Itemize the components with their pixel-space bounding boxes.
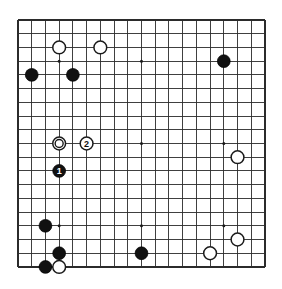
- star-point: [222, 142, 225, 145]
- stone-body: [39, 219, 52, 232]
- stone-white[interactable]: [231, 151, 244, 164]
- stone-black[interactable]: [53, 247, 66, 260]
- stone-white[interactable]: [53, 261, 66, 274]
- stone-body: [53, 41, 66, 54]
- stone-black[interactable]: [217, 55, 230, 68]
- stone-black[interactable]: [39, 261, 52, 274]
- star-point: [140, 60, 143, 63]
- stone-body: [231, 151, 244, 164]
- stone-body: [39, 261, 52, 274]
- stone-white[interactable]: [231, 233, 244, 246]
- stone-white[interactable]: [53, 137, 66, 150]
- stone-white[interactable]: [53, 41, 66, 54]
- stone-white[interactable]: [94, 41, 107, 54]
- go-board-canvas[interactable]: 21: [0, 0, 282, 289]
- stone-move-number: 1: [57, 166, 62, 176]
- stone-body: [53, 261, 66, 274]
- stone-black[interactable]: [39, 219, 52, 232]
- stone-black[interactable]: [66, 68, 79, 81]
- stone-body: [231, 233, 244, 246]
- stone-body: [94, 41, 107, 54]
- stone-body: [135, 247, 148, 260]
- stone-black[interactable]: [25, 68, 38, 81]
- stone-body: [66, 68, 79, 81]
- stone-body: [204, 247, 217, 260]
- stone-body: [217, 55, 230, 68]
- star-point: [140, 224, 143, 227]
- go-board[interactable]: 21: [0, 0, 282, 289]
- stone-move-number: 2: [84, 139, 89, 149]
- stone-body: [25, 68, 38, 81]
- go-diagram-page: 21: [0, 0, 282, 289]
- star-point: [222, 224, 225, 227]
- star-point: [140, 142, 143, 145]
- stone-black[interactable]: [135, 247, 148, 260]
- star-point: [58, 224, 61, 227]
- stone-body: [53, 247, 66, 260]
- star-point: [58, 60, 61, 63]
- stone-white-move-2[interactable]: 2: [80, 137, 93, 150]
- stone-black-move-1[interactable]: 1: [53, 165, 66, 178]
- stone-white[interactable]: [204, 247, 217, 260]
